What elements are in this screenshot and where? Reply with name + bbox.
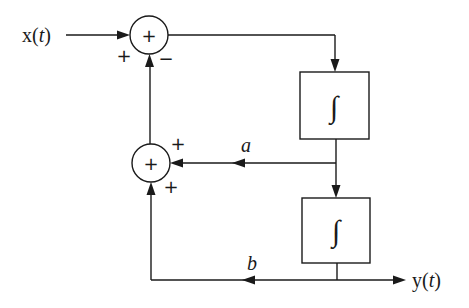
gain-a-mid-arrowhead (232, 159, 245, 168)
summer-bottom-lower-sign: + (163, 176, 178, 197)
summer-bottom-lower-arrowhead (147, 182, 156, 195)
output-label: y(t) (412, 269, 441, 292)
integrator-top-symbol: ∫ (328, 90, 340, 126)
input-label: x(t) (22, 24, 51, 47)
summer-top-left-sign: + (116, 45, 131, 66)
summer-bottom-symbol: + (143, 153, 158, 174)
summer-bottom-right-arrowhead (170, 159, 183, 168)
integrator-bottom-input-arrowhead (332, 185, 341, 198)
input-arrowhead (117, 31, 130, 40)
summer-bottom-right-sign: + (170, 133, 185, 154)
summer-top-symbol: + (141, 25, 156, 46)
summer-top-bottom-arrowhead (145, 54, 154, 67)
block-diagram: x(t) + + − ∫ a ∫ y(t) b + + + (0, 0, 469, 308)
gain-b-label: b (247, 252, 257, 274)
integrator-bottom-symbol: ∫ (330, 214, 342, 250)
gain-b-arrowhead (242, 276, 255, 285)
output-arrowhead (393, 276, 406, 285)
summer-top-bottom-sign: − (158, 48, 173, 69)
integrator-top-input-arrowhead (331, 59, 340, 72)
gain-a-label: a (241, 134, 251, 156)
